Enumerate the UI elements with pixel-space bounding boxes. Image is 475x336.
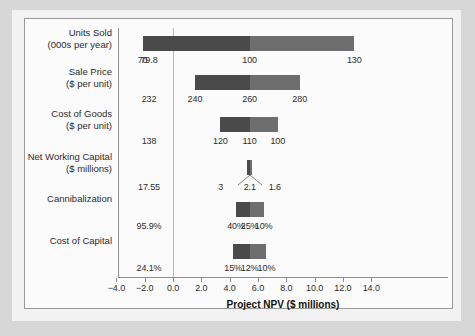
breakeven-value-label: 138 — [127, 136, 171, 146]
x-axis-title: Project NPV ($ millions) — [133, 299, 433, 310]
row-label-line1: Cost of Goods — [0, 108, 112, 120]
bar-value-label-high: 1.6 — [253, 182, 297, 192]
row-label-line1: Cannibalization — [0, 193, 112, 205]
bar-segment-low — [233, 244, 249, 259]
bar-value-label-high: 10% — [242, 221, 286, 231]
row-label-net-working-capital: Net Working Capital($ millions) — [0, 151, 112, 174]
x-axis-tick — [201, 278, 202, 282]
row-label-sale-price: Sale Price($ per unit) — [0, 66, 112, 89]
bar-segment-low — [143, 36, 250, 51]
breakeven-value-label: 79.8 — [127, 55, 171, 65]
x-axis-tick — [258, 278, 259, 282]
row-label-line1: Net Working Capital — [0, 151, 112, 163]
row-label-cannibalization: Cannibalization — [0, 193, 112, 205]
x-axis-tick-label: 14.0 — [351, 283, 391, 293]
breakeven-value-label: 232 — [127, 94, 171, 104]
row-label-line1: Cost of Capital — [0, 235, 112, 247]
x-axis-tick — [286, 278, 287, 282]
breakeven-value-label: 24.1% — [127, 263, 171, 273]
bar-segment-high — [250, 160, 253, 175]
x-axis-tick — [173, 278, 174, 282]
tornado-chart: −4.0−2.00.02.04.06.08.010.012.014.0Proje… — [0, 0, 475, 336]
row-label-units-sold: Units Sold(000s per year) — [0, 27, 112, 50]
row-label-line1: Sale Price — [0, 66, 112, 78]
row-label-line2: (000s per year) — [0, 39, 112, 51]
x-axis-line — [118, 277, 448, 278]
row-label-cost-of-capital: Cost of Capital — [0, 235, 112, 247]
x-axis-tick — [116, 278, 117, 282]
bar-segment-low — [195, 75, 250, 90]
bar-segment-high — [250, 75, 300, 90]
bar-value-label-base: 260 — [228, 94, 272, 104]
bar-segment-high — [250, 36, 355, 51]
figure-container: −4.0−2.00.02.04.06.08.010.012.014.0Proje… — [0, 0, 475, 336]
bar-segment-low — [236, 202, 250, 217]
label-plot-divider — [118, 28, 119, 277]
row-label-line2: ($ millions) — [0, 163, 112, 175]
x-axis-tick — [371, 278, 372, 282]
x-axis-tick — [145, 278, 146, 282]
bar-value-label-high: 130 — [332, 55, 376, 65]
row-label-cost-of-goods: Cost of Goods($ per unit) — [0, 108, 112, 131]
zero-reference-line — [173, 28, 174, 277]
bar-value-label-low: 240 — [173, 94, 217, 104]
breakeven-value-label: 17.55 — [127, 182, 171, 192]
x-axis-tick — [315, 278, 316, 282]
row-label-line2: ($ per unit) — [0, 78, 112, 90]
x-axis-tick — [230, 278, 231, 282]
bar-segment-high — [250, 202, 264, 217]
bar-segment-high — [250, 117, 278, 132]
bar-value-label-high: 100 — [256, 136, 300, 146]
bar-value-label-base: 100 — [228, 55, 272, 65]
x-axis-tick — [343, 278, 344, 282]
breakeven-value-label: 95.9% — [127, 221, 171, 231]
row-label-line1: Units Sold — [0, 27, 112, 39]
bar-segment-high — [250, 244, 267, 259]
bar-value-label-high: 280 — [278, 94, 322, 104]
bar-segment-low — [220, 117, 249, 132]
bar-value-label-high: 10% — [244, 263, 288, 273]
row-label-line2: ($ per unit) — [0, 120, 112, 132]
